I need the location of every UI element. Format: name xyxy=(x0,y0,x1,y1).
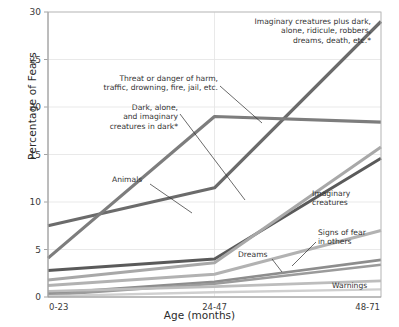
annotation-line: in others xyxy=(318,237,352,246)
annotation-line: alone, ridicule, robbers, xyxy=(281,26,371,35)
annotation-line: Dreams xyxy=(238,250,268,259)
plot-area: 051015202530 0-2324-4748-71 Imaginary cr… xyxy=(0,0,399,327)
leader-line xyxy=(150,184,192,213)
annotation-line: dreams, death, etc.* xyxy=(293,36,371,45)
y-tick-label: 15 xyxy=(30,150,41,160)
annotation-line: traffic, drowning, fire, jail, etc. xyxy=(104,83,218,92)
anno-threat: Threat or danger of harm,traffic, drowni… xyxy=(104,74,218,92)
y-tick-label: 30 xyxy=(30,7,42,17)
x-tick-label: 48-71 xyxy=(355,302,380,312)
anno-imaginary-plus: Imaginary creatures plus dark,alone, rid… xyxy=(255,17,372,45)
y-tick-label: 20 xyxy=(30,102,42,112)
anno-imaginary-creatures: Imaginarycreatures xyxy=(312,189,351,207)
annotation-line: Signs of fear xyxy=(318,228,367,237)
fears-by-age-line-chart: Percentage of Fears Age (months) 0510152… xyxy=(0,0,399,327)
annotation-line: creatures in dark* xyxy=(110,122,179,131)
annotation-line: Imaginary creatures plus dark, xyxy=(255,17,371,26)
anno-warnings: Warnings xyxy=(332,281,367,290)
y-tick-label: 10 xyxy=(30,197,42,207)
annotation-line: creatures xyxy=(312,198,348,207)
x-tick-label: 24-47 xyxy=(202,302,227,312)
series-annotations: Imaginary creatures plus dark,alone, rid… xyxy=(104,17,372,290)
annotation-line: Threat or danger of harm, xyxy=(118,74,218,83)
annotation-line: Dark, alone, xyxy=(132,103,178,112)
anno-animals: Animals xyxy=(112,175,142,184)
annotation-line: Imaginary xyxy=(312,189,351,198)
annotation-line: Animals xyxy=(112,175,142,184)
y-axis-ticks: 051015202530 xyxy=(30,7,48,302)
y-tick-label: 25 xyxy=(30,55,41,65)
y-tick-label: 5 xyxy=(35,245,41,255)
annotation-line: Warnings xyxy=(332,281,367,290)
x-tick-label: 0-23 xyxy=(49,302,68,312)
y-tick-label: 0 xyxy=(35,292,41,302)
annotation-line: and imaginary xyxy=(123,112,178,121)
leader-line xyxy=(272,259,282,272)
anno-dreams: Dreams xyxy=(238,250,268,259)
